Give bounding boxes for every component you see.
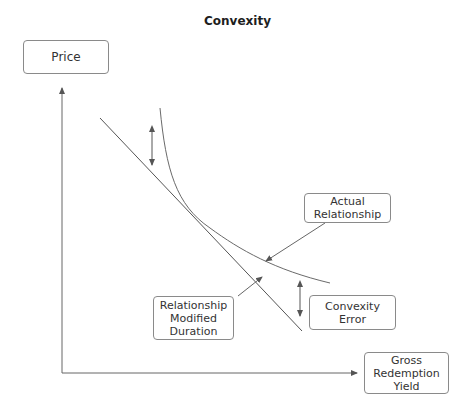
gross-redemption-yield-label: Gross Redemption Yield	[364, 352, 449, 394]
gry-line-2: Redemption	[373, 367, 439, 380]
gry-line-3: Yield	[373, 380, 439, 393]
price-axis-label: Price	[23, 40, 109, 74]
actual-relationship-line-2: Relationship	[314, 208, 382, 221]
modified-duration-label: Relationship Modified Duration	[153, 296, 234, 340]
gry-line-1: Gross	[373, 354, 439, 367]
actual-relationship-line-1: Actual	[314, 195, 382, 208]
modified-duration-line-3: Duration	[160, 325, 228, 338]
modified-duration-line-2: Modified	[160, 312, 228, 325]
actual-relationship-label: Actual Relationship	[304, 193, 391, 223]
convexity-error-label: Convexity Error	[309, 295, 396, 330]
price-label-text: Price	[51, 51, 80, 64]
modified-duration-line-1: Relationship	[160, 299, 228, 312]
modified-duration-pointer-arrow	[238, 277, 262, 296]
actual-relationship-pointer-arrow	[266, 223, 325, 261]
convexity-error-text: Convexity Error	[310, 300, 395, 326]
